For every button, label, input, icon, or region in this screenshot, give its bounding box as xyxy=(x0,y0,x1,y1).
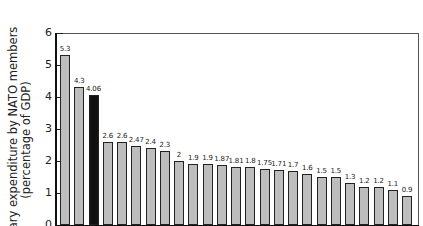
bar xyxy=(174,161,184,225)
y-tick-label: 5 xyxy=(38,58,52,71)
bar xyxy=(131,146,141,225)
y-tick-label: 3 xyxy=(38,122,52,135)
bar xyxy=(374,187,384,225)
bar xyxy=(402,196,412,225)
bar xyxy=(117,142,127,225)
y-axis-label: Military expenditure by NATO members (pe… xyxy=(0,0,40,226)
y-axis-line xyxy=(55,33,57,226)
bar xyxy=(288,171,298,225)
bar-value-label: 2.3 xyxy=(153,141,177,149)
y-tick-label: 1 xyxy=(38,186,52,199)
bar xyxy=(359,187,369,225)
y-tick-mark xyxy=(57,33,63,34)
bar xyxy=(188,164,198,225)
bar xyxy=(331,177,341,225)
bar xyxy=(317,177,327,225)
bar xyxy=(302,174,312,225)
x-axis-line xyxy=(55,225,419,226)
bar-value-label: 0.9 xyxy=(395,186,419,194)
bar xyxy=(217,165,227,225)
bar xyxy=(231,167,241,225)
bar-chart: Military expenditure by NATO members (pe… xyxy=(0,0,423,226)
y-tick-label: 6 xyxy=(38,26,52,39)
bar xyxy=(388,190,398,225)
bar xyxy=(203,164,213,225)
bar xyxy=(274,170,284,225)
bar xyxy=(160,151,170,225)
y-axis-label-line-2: (percentage of GDP) xyxy=(20,27,33,226)
bar xyxy=(89,95,99,225)
bar xyxy=(146,148,156,225)
bar-value-label: 4.06 xyxy=(82,85,106,93)
bar xyxy=(260,169,270,225)
y-tick-label: 0 xyxy=(38,218,52,226)
bar xyxy=(74,87,84,225)
bar xyxy=(245,167,255,225)
bar xyxy=(345,183,355,225)
y-tick-label: 4 xyxy=(38,90,52,103)
bar xyxy=(103,142,113,225)
y-tick-label: 2 xyxy=(38,154,52,167)
